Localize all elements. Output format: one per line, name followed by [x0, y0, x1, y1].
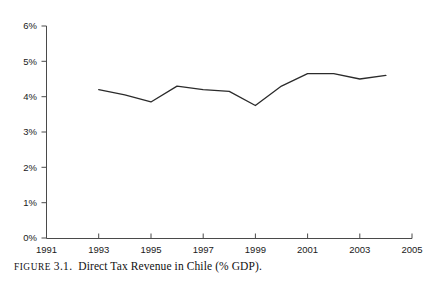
y-tick-label: 5% [23, 56, 37, 67]
y-tick-label: 4% [23, 91, 37, 102]
figure-caption: FIGURE 3.1. Direct Tax Revenue in Chile … [14, 260, 434, 272]
x-tick-label: 1995 [140, 244, 161, 255]
y-tick-label: 3% [23, 126, 37, 137]
y-tick-label: 2% [23, 162, 37, 173]
caption-number: 3.1. [54, 260, 72, 272]
y-tick-label: 1% [23, 197, 37, 208]
y-tick-label: 6% [23, 20, 37, 31]
caption-text: Direct Tax Revenue in Chile (% GDP). [78, 260, 262, 272]
x-tick-label: 1997 [193, 244, 214, 255]
figure-page: 6% 5% 4% 3% 2% 1% 0% [0, 0, 441, 282]
x-tick-labels: 1991 1993 1995 1997 1999 2001 2003 2005 [36, 244, 423, 255]
x-tick-label: 1993 [88, 244, 109, 255]
y-tick-labels: 6% 5% 4% 3% 2% 1% 0% [23, 20, 37, 243]
x-tick-label: 2001 [297, 244, 318, 255]
caption-prefix: FIGURE [14, 262, 51, 272]
x-tick-label: 2005 [401, 244, 422, 255]
x-tick-label: 1991 [36, 244, 57, 255]
chart-figure: 6% 5% 4% 3% 2% 1% 0% [0, 0, 441, 258]
y-tick-marks [42, 26, 47, 238]
y-tick-label: 0% [23, 232, 37, 243]
x-tick-label: 2003 [349, 244, 370, 255]
x-tick-label: 1999 [245, 244, 266, 255]
y-axis: 6% 5% 4% 3% 2% 1% 0% [23, 20, 46, 243]
x-tick-marks [47, 234, 413, 239]
data-series-line [99, 74, 386, 106]
x-axis: 1991 1993 1995 1997 1999 2001 2003 2005 [36, 234, 423, 256]
line-chart: 6% 5% 4% 3% 2% 1% 0% [0, 0, 441, 258]
